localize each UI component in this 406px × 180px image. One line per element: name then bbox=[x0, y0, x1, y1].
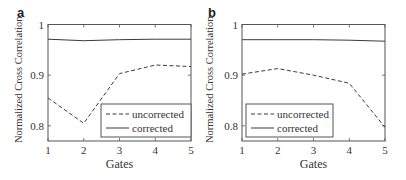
panel-b: b0.80.9112345GatesNormalized Cross Corre… bbox=[204, 5, 388, 171]
x-tick-label: 4 bbox=[347, 144, 353, 156]
series-corrected bbox=[242, 40, 385, 42]
legend-label-uncorrected: uncorrected bbox=[277, 108, 329, 120]
x-tick-label: 2 bbox=[275, 144, 281, 156]
y-axis-label: Normalized Cross Correlation bbox=[13, 16, 24, 143]
y-tick-label: 0.8 bbox=[30, 120, 44, 132]
series-corrected bbox=[48, 39, 191, 41]
x-tick-label: 3 bbox=[311, 144, 317, 156]
x-tick-label: 5 bbox=[382, 144, 388, 156]
y-axis-label: Normalized Cross Correlation bbox=[204, 16, 215, 143]
figure: a0.80.9112345GatesNormalized Cross Corre… bbox=[0, 0, 406, 180]
x-tick-label: 4 bbox=[153, 144, 159, 156]
y-tick-label: 1 bbox=[233, 19, 239, 31]
panel-a: a0.80.9112345GatesNormalized Cross Corre… bbox=[13, 5, 194, 171]
x-axis-label: Gates bbox=[300, 157, 328, 171]
y-tick-label: 0.9 bbox=[30, 69, 44, 81]
legend: uncorrectedcorrected bbox=[246, 104, 333, 137]
x-tick-label: 1 bbox=[45, 144, 51, 156]
y-tick-label: 0.8 bbox=[224, 120, 238, 132]
x-tick-label: 5 bbox=[188, 144, 194, 156]
legend-label-corrected: corrected bbox=[132, 122, 173, 134]
y-tick-label: 1 bbox=[39, 19, 45, 31]
x-tick-label: 1 bbox=[239, 144, 245, 156]
x-tick-label: 2 bbox=[81, 144, 87, 156]
legend-label-corrected: corrected bbox=[277, 122, 318, 134]
x-axis-label: Gates bbox=[106, 157, 134, 171]
x-tick-label: 3 bbox=[117, 144, 123, 156]
legend-label-uncorrected: uncorrected bbox=[132, 108, 184, 120]
legend: uncorrectedcorrected bbox=[101, 104, 191, 137]
y-tick-label: 0.9 bbox=[224, 69, 238, 81]
